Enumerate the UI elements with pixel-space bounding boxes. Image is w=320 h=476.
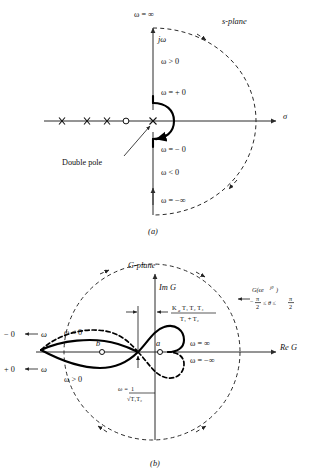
gain-denominator: T₁ + T₂ [180,315,199,322]
label-omega-left-upper: ω [41,330,47,339]
panel-b: a b K a T₁ T₂ T₄ T₁ + T₂ G(ϵe jθ ) − π 2… [4,261,297,468]
double-pole-leader [124,126,150,156]
label-omega-positive: ω > 0 [161,57,179,66]
figure-nyquist-contour-pair: ω = ∞ jω s-plane ω > 0 ω = + 0 ω = − 0 ω… [0,0,320,476]
label-jomega-axis: jω [157,35,166,44]
omega-resonance-lead: ω = [118,385,128,392]
caption-panel-a: (a) [148,227,158,236]
point-b-marker [100,350,105,355]
label-g-plane: G-plane [128,261,156,270]
g-circle-direction-arrow-bottom-left [98,426,107,432]
label-point-b: b [96,339,100,348]
panel-a: ω = ∞ jω s-plane ω > 0 ω = + 0 ω = − 0 ω… [44,10,288,236]
label-omega-inf-top: ω = ∞ [134,10,154,19]
locus-positive-lower-edge [41,350,138,368]
point-a-marker [158,350,163,355]
label-omega-left-lower: ω [41,365,47,374]
label-double-pole: Double pole [62,158,103,167]
label-minus-zero: − 0 [4,330,15,339]
omega-resonance-expression: ω = 1 √T₁T₂ [118,385,155,402]
label-omega-inf-b: ω = ∞ [190,339,210,348]
gain-numerator-terms: T₁ T₂ T₄ [182,304,203,311]
theta-range-minus: − [250,298,254,305]
omega-resonance-numerator: 1 [131,385,134,392]
label-re-g: Re G [279,343,297,352]
plus-zero-annotation: + 0 ω [4,365,47,374]
label-omega-positive-b: ω > 0 [64,375,82,384]
locus-positive-right-loop [138,326,184,352]
theta-range-right-num: π [289,295,293,302]
g-epsilon-close-paren: ) [275,286,278,294]
label-omega-negative: ω < 0 [161,168,179,177]
label-omega-minus-zero: ω = − 0 [161,145,186,154]
theta-range-left-den: 2 [256,303,259,310]
figure-svg: ω = ∞ jω s-plane ω > 0 ω = + 0 ω = − 0 ω… [0,0,320,476]
g-epsilon-label: G(ϵe [252,286,264,294]
locus-positive-upper-edge [41,340,138,352]
gain-numerator-K: K [172,304,177,311]
theta-range-right-den: 2 [289,303,292,310]
label-point-a: a [156,339,160,348]
gain-numerator-K-sub: a [178,308,181,313]
label-s-plane: s-plane [222,17,247,26]
omega-resonance-denominator: √T₁T₂ [127,395,142,402]
theta-range-expression: − π 2 ≤ θ ≤ π 2 [250,295,294,310]
label-omega-plus-zero: ω = + 0 [161,88,186,97]
theta-range-left-num: π [256,295,260,302]
label-omega-minus-inf: ω = −∞ [161,196,186,205]
zero-marker-1 [123,118,129,124]
label-plus-zero: + 0 [4,365,15,374]
label-omega-negative-b: ω < 0 [64,328,82,337]
g-epsilon-exponent: jθ [269,285,274,290]
infinite-arc-direction-arrow-bottom [229,180,237,189]
gain-expression: K a T₁ T₂ T₄ T₁ + T₂ [171,304,216,322]
g-circle-direction-arrow-top-left [100,270,109,274]
label-sigma-axis: σ [283,112,288,121]
minus-zero-annotation: − 0 ω [4,330,47,339]
locus-negative-right-loop [138,352,184,378]
theta-range-middle: ≤ θ ≤ [263,299,277,306]
caption-panel-b: (b) [150,459,160,468]
label-im-g: Im G [158,283,176,292]
label-omega-minus-inf-b: ω = −∞ [190,356,215,365]
